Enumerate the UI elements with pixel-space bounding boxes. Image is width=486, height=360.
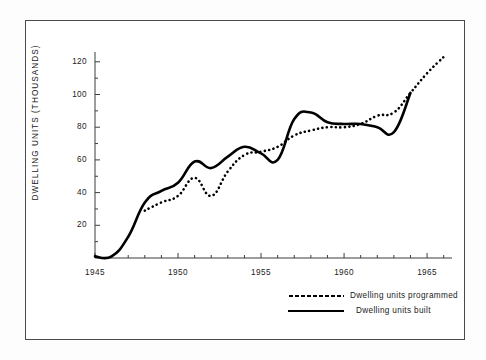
y-tick-label: 100 [49, 90, 87, 99]
x-tick-label: 1945 [75, 268, 115, 277]
x-tick-label: 1960 [324, 268, 364, 277]
y-tick-label: 120 [49, 57, 87, 66]
y-axis-label: DWELLING UNITS (THOUSANDS) [31, 28, 40, 218]
y-tick-label: 20 [49, 220, 87, 229]
legend-swatch-dotted-icon [288, 291, 338, 301]
x-tick-label: 1955 [241, 268, 281, 277]
series-line-programmed [145, 57, 444, 211]
y-tick-label: 60 [49, 155, 87, 164]
x-tick-label: 1950 [158, 268, 198, 277]
legend-label-programmed: Dwelling units programmed [350, 291, 458, 300]
x-tick-label: 1965 [407, 268, 447, 277]
legend-label-built: Dwelling units built [356, 306, 431, 315]
chart-figure: DWELLING UNITS (THOUSANDS) 2040608010012… [0, 0, 486, 360]
legend-item-programmed: Dwelling units programmed [288, 288, 458, 303]
legend-swatch-solid-icon [288, 306, 344, 316]
series-line-built [95, 93, 410, 258]
legend-item-built: Dwelling units built [288, 303, 458, 318]
y-tick-label: 40 [49, 188, 87, 197]
y-tick-label: 80 [49, 122, 87, 131]
chart-legend: Dwelling units programmed Dwelling units… [288, 288, 458, 318]
